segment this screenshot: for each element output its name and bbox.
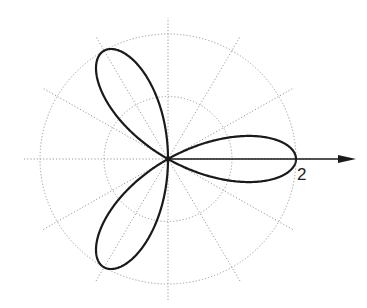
polar-axis: 2 bbox=[166, 155, 357, 184]
radius-tick-label: 2 bbox=[297, 165, 306, 184]
axis-arrow-icon bbox=[338, 155, 356, 163]
pole-dot bbox=[166, 157, 171, 162]
polar-rose-chart: 2 bbox=[0, 0, 367, 308]
